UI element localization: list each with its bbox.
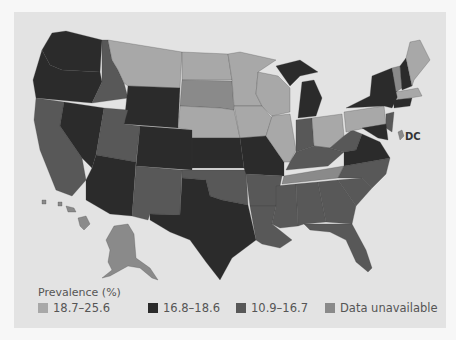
dc-label: DC xyxy=(405,131,421,142)
state-alaska[interactable] xyxy=(102,224,158,280)
legend-item-high: 18.7–25.6 xyxy=(38,301,110,315)
legend-title: Prevalence (%) xyxy=(38,286,438,299)
state-new-mexico[interactable] xyxy=(132,166,182,220)
legend-label-high: 18.7–25.6 xyxy=(53,301,110,315)
legend-item-upper-mid: 16.8–18.6 xyxy=(148,301,220,315)
state-florida[interactable] xyxy=(304,224,372,272)
legend-item-lower-mid: 10.9–16.7 xyxy=(236,301,308,315)
legend: Prevalence (%) 18.7–25.6 16.8–18.6 10.9–… xyxy=(38,286,438,317)
state-new-york[interactable] xyxy=(346,68,398,108)
state-south-dakota[interactable] xyxy=(180,80,234,110)
legend-label-lower-mid: 10.9–16.7 xyxy=(251,301,308,315)
state-connecticut[interactable] xyxy=(394,98,412,108)
state-colorado[interactable] xyxy=(136,126,194,170)
state-north-dakota[interactable] xyxy=(182,52,232,80)
state-iowa[interactable] xyxy=(234,106,272,138)
legend-swatch-upper-mid xyxy=(148,303,158,313)
legend-swatch-lower-mid xyxy=(236,303,246,313)
dc-marker[interactable] xyxy=(398,130,404,140)
legend-swatch-unavailable xyxy=(325,303,335,313)
legend-swatch-high xyxy=(38,303,48,313)
state-mississippi[interactable] xyxy=(272,184,298,228)
legend-label-unavailable: Data unavailable xyxy=(340,301,438,315)
state-hawaii[interactable] xyxy=(42,200,90,230)
state-wyoming[interactable] xyxy=(124,86,180,128)
state-arizona[interactable] xyxy=(86,155,136,216)
state-kansas[interactable] xyxy=(192,138,244,168)
legend-label-upper-mid: 16.8–18.6 xyxy=(163,301,220,315)
legend-item-unavailable: Data unavailable xyxy=(325,301,438,315)
state-new-jersey[interactable] xyxy=(386,112,394,132)
